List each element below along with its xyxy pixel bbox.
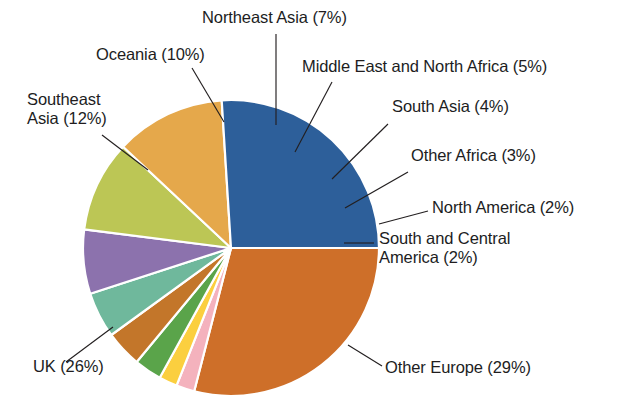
slice-label-south-and-central-america: South and Central America (2%) [379, 229, 510, 267]
pie-slices [83, 100, 379, 396]
slice-label-oceania: Oceania (10%) [96, 45, 205, 64]
slice-label-northeast-asia: Northeast Asia (7%) [202, 8, 347, 27]
slice-label-southeast-asia: Southeast Asia (12%) [27, 90, 107, 128]
slice-label-middle-east-and-north-africa: Middle East and North Africa (5%) [302, 57, 547, 76]
leader-line-north-america [379, 211, 428, 224]
slice-label-south-asia: South Asia (4%) [392, 97, 509, 116]
slice-label-other-africa: Other Africa (3%) [411, 146, 536, 165]
slice-label-other-europe: Other Europe (29%) [385, 358, 531, 377]
slice-label-north-america: North America (2%) [432, 198, 574, 217]
pie-slice-uk [222, 100, 379, 248]
pie-chart: Northeast Asia (7%) Oceania (10%) Middle… [0, 0, 639, 412]
leader-line-other-europe [348, 345, 382, 366]
slice-label-uk: UK (26%) [33, 357, 104, 376]
